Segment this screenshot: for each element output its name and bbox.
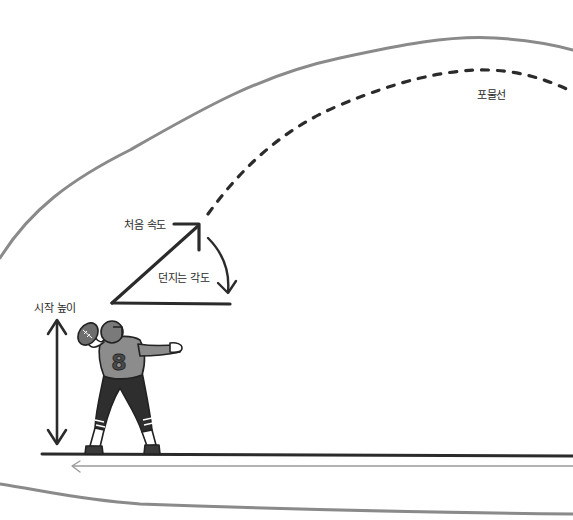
jersey-number: 8 xyxy=(111,350,126,375)
distance-arrow xyxy=(72,461,573,472)
start-height-label: 시작 높이 xyxy=(34,299,76,315)
trajectory-label: 포물선 xyxy=(477,86,506,102)
football-player xyxy=(74,319,182,454)
throw-angle-arrow xyxy=(208,238,236,293)
start-height-arrow xyxy=(48,320,66,444)
ground-line xyxy=(42,454,573,456)
velocity-vector-arrow xyxy=(112,224,199,303)
triangle-base-line xyxy=(112,303,230,304)
trajectory-dashed-curve xyxy=(208,70,573,214)
boundary-curve-bottom xyxy=(0,484,573,514)
throw-angle-label: 던지는 각도 xyxy=(158,269,210,285)
initial-velocity-label: 처음 속도 xyxy=(124,216,166,232)
